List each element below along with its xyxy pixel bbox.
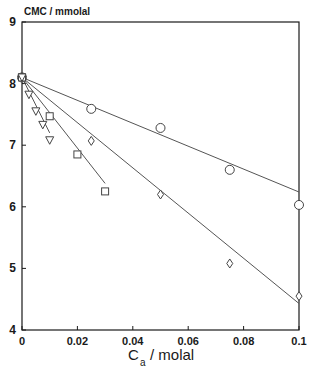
x-tick-label: 0.08 [233, 335, 254, 347]
marker-diamond [227, 259, 233, 268]
marker-circle [225, 165, 234, 174]
marker-diamond [88, 136, 94, 145]
svg-text:a: a [140, 357, 146, 368]
svg-text:C: C [128, 346, 139, 363]
marker-diamond [296, 292, 302, 301]
svg-text:/ molal: / molal [150, 346, 194, 363]
marker-square [46, 113, 53, 120]
y-axis-ticks: 456789 [9, 15, 26, 337]
data-markers [18, 73, 304, 301]
fit-line-circle [22, 77, 299, 192]
y-tick-label: 9 [9, 15, 16, 29]
x-tick-label: 0 [19, 335, 25, 347]
marker-circle [295, 200, 304, 209]
x-axis-title: C a / molal [128, 346, 194, 368]
y-tick-label: 5 [9, 261, 16, 275]
y-tick-label: 6 [9, 200, 16, 214]
y-tick-label: 4 [9, 323, 16, 337]
y-tick-label: 7 [9, 138, 16, 152]
marker-square [74, 151, 81, 158]
x-tick-label: 0.1 [291, 335, 306, 347]
fit-line-square [22, 77, 105, 183]
x-axis-ticks: 00.020.040.060.080.1 [19, 326, 307, 347]
x-tick-label: 0.02 [67, 335, 88, 347]
marker-circle [87, 104, 96, 113]
chart: 00.020.040.060.080.1 456789 CMC / mmolal… [0, 0, 316, 378]
plot-border [22, 22, 299, 330]
y-axis-title: CMC / mmolal [24, 6, 90, 17]
marker-square [102, 188, 109, 195]
marker-circle [156, 123, 165, 132]
marker-diamond [158, 190, 164, 199]
marker-triangle-down [46, 137, 54, 145]
plot-frame [22, 22, 299, 330]
y-tick-label: 8 [9, 77, 16, 91]
